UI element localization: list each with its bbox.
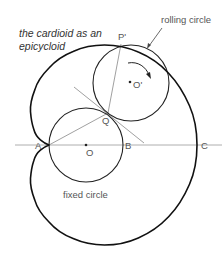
rolling-circle-label: rolling circle [161,14,211,25]
fixed-circle-label: fixed circle [63,189,108,200]
point-q-label: Q [102,115,109,126]
rotation-arrowhead-icon [146,72,151,79]
rolling-circle [93,45,169,121]
line-a-to-q [49,113,108,145]
point-o-dot [85,144,88,147]
point-p-prime-label: P' [118,31,126,42]
point-o-prime-dot [129,81,132,84]
line-q-to-p-prime [108,44,121,113]
point-c-label: C [201,140,208,151]
cardioid-diagram: the cardioid as an epicycloid rolling ci… [0,0,224,255]
point-o-label: O [86,147,93,158]
rotation-arrow-icon [128,63,149,75]
point-o-prime-label: O' [133,79,142,90]
point-a-label: A [35,140,42,151]
figure-title-line1: the cardioid as an [19,27,102,39]
point-b-label: B [125,140,131,151]
rolling-circle-pointer [149,28,162,46]
figure-title-line2: epicycloid [19,40,66,52]
